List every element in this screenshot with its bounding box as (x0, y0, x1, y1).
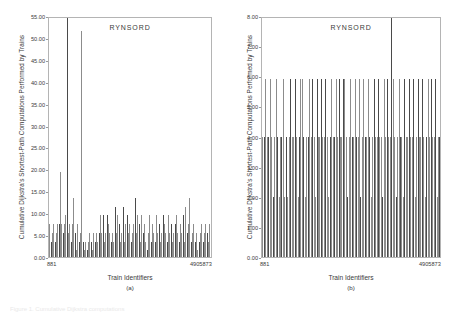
y-tick-label: 35.00 (24, 102, 45, 108)
y-tick-mark (259, 168, 262, 169)
y-tick-mark (46, 61, 49, 62)
y-tick-mark (46, 17, 49, 18)
y-tick-label: 15.00 (24, 189, 45, 195)
x-axis-title-b: Train Identifiers (261, 274, 441, 281)
bar (81, 31, 82, 257)
y-tick-mark (259, 17, 262, 18)
y-tick-label: 50.00 (24, 36, 45, 42)
y-tick-mark (259, 138, 262, 139)
bar (67, 18, 68, 257)
y-tick-mark (46, 105, 49, 106)
y-tick-label: 8.00 (237, 14, 258, 20)
y-tick-label: 45.00 (24, 58, 45, 64)
y-tick-mark (46, 83, 49, 84)
plot-area-b (261, 17, 441, 258)
bar-series-a (49, 18, 211, 257)
figure-bottom-caption: Figure 1. Cumulative Dijkstra computatio… (10, 306, 446, 314)
y-tick-label: 40.00 (24, 80, 45, 86)
y-tick-mark (259, 107, 262, 108)
y-tick-label: 55.00 (24, 14, 45, 20)
y-tick-label: 5.00 (237, 104, 258, 110)
y-tick-mark (46, 127, 49, 128)
y-tick-mark (259, 77, 262, 78)
y-tick-label: 30.00 (24, 124, 45, 130)
y-tick-mark (46, 236, 49, 237)
y-tick-mark (46, 192, 49, 193)
y-tick-label: 20.00 (24, 167, 45, 173)
x-axis-tick-end-b: 4905873 (419, 261, 441, 268)
y-tick-mark (46, 39, 49, 40)
y-tick-mark (46, 214, 49, 215)
y-tick-mark (259, 228, 262, 229)
y-tick-mark (259, 258, 262, 259)
y-tick-label: 0.00 (237, 255, 258, 261)
y-tick-mark (46, 148, 49, 149)
x-axis-tick-start-b: 881 (260, 261, 269, 268)
panel-subcaption-b: (b) (261, 284, 441, 291)
bar (439, 137, 440, 258)
y-tick-mark (259, 198, 262, 199)
y-tick-mark (259, 47, 262, 48)
bar-series-b (262, 18, 440, 257)
y-tick-label: 5.00 (24, 233, 45, 239)
x-axis-title-a: Train Identifiers (48, 274, 212, 281)
y-tick-mark (46, 170, 49, 171)
y-tick-label: 2.00 (237, 195, 258, 201)
x-axis-tick-end-a: 4905873 (190, 261, 212, 268)
y-tick-mark (46, 258, 49, 259)
chart-title-b: RYNSORD (261, 24, 441, 31)
figure-container: Cumulative Dijkstra's Shortest-Path Comp… (0, 0, 456, 314)
chart-panel-a: Cumulative Dijkstra's Shortest-Path Comp… (0, 0, 228, 300)
y-tick-label: 6.00 (237, 74, 258, 80)
chart-title-a: RYNSORD (48, 24, 212, 31)
y-axis-title-a: Cumulative Dijkstra's Shortest-Path Comp… (16, 12, 28, 262)
x-axis-tick-start-a: 881 (47, 261, 56, 268)
y-tick-label: 3.00 (237, 165, 258, 171)
plot-area-a (48, 17, 212, 258)
chart-panel-b: Cumulative Dijkstra's Shortest-Path Comp… (228, 0, 456, 300)
y-tick-label: 0.00 (24, 255, 45, 261)
y-tick-label: 10.00 (24, 211, 45, 217)
y-tick-label: 4.00 (237, 135, 258, 141)
y-tick-label: 25.00 (24, 145, 45, 151)
panel-subcaption-a: (a) (48, 284, 212, 291)
y-tick-label: 7.00 (237, 44, 258, 50)
y-tick-label: 1.00 (237, 225, 258, 231)
